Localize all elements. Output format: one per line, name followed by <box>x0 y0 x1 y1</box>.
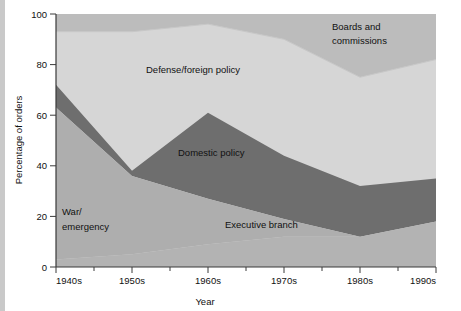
y-tick-label-40: 40 <box>36 160 47 171</box>
y-tick-label-100: 100 <box>31 9 47 20</box>
series-label-war-line2: emergency <box>62 221 109 232</box>
x-tick-label-1940s: 1940s <box>56 275 82 286</box>
y-tick-label-0: 0 <box>42 262 47 273</box>
y-axis-ticks <box>50 14 56 267</box>
x-tick-label-1980s: 1980s <box>347 275 373 286</box>
x-tick-label-1960s: 1960s <box>195 275 221 286</box>
series-label-boards-line2: commissions <box>332 35 387 46</box>
series-label-war-line1: War/ <box>62 206 82 217</box>
x-axis-title: Year <box>195 296 214 307</box>
x-tick-label-1970s: 1970s <box>271 275 297 286</box>
series-label-boards-line1: Boards and <box>332 21 381 32</box>
chart-canvas: 0 20 40 60 80 100 1940s 1950s 1960s 1970… <box>0 0 461 311</box>
chart-figure: 0 20 40 60 80 100 1940s 1950s 1960s 1970… <box>0 0 461 311</box>
series-label-defense-foreign-policy: Defense/foreign policy <box>146 64 240 75</box>
y-tick-label-20: 20 <box>36 211 47 222</box>
y-tick-label-60: 60 <box>36 110 47 121</box>
series-label-domestic-policy: Domestic policy <box>178 147 245 158</box>
x-axis-ticks <box>56 267 436 273</box>
y-tick-label-80: 80 <box>36 59 47 70</box>
x-tick-label-1950s: 1950s <box>119 275 145 286</box>
y-axis-title: Percentage of orders <box>13 95 24 184</box>
series-label-executive-branch: Executive branch <box>225 219 298 230</box>
x-tick-label-1990s: 1990s <box>410 275 436 286</box>
